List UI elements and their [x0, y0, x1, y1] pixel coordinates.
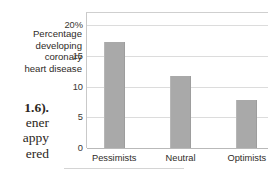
plot-area: 05101520% PessimistsNeutralOptimists: [86, 12, 268, 148]
x-axis-category-label: Optimists: [227, 153, 266, 163]
body-text-column: 1.6). ener appy ered: [0, 100, 52, 161]
bar: [104, 42, 125, 148]
y-axis-tick-label: 0: [78, 143, 83, 153]
body-text-fragment: appy: [0, 130, 49, 145]
y-axis-tick-label: 5: [78, 112, 83, 122]
page-rule: [64, 168, 184, 169]
bar: [236, 100, 257, 148]
y-axis-label-line: heart disease: [0, 63, 82, 75]
bar-chart: 05101520% PessimistsNeutralOptimists: [86, 12, 268, 148]
y-axis-tick-label: 20%: [64, 20, 83, 30]
y-axis-tick-label: 15: [73, 51, 83, 61]
y-axis-label-line: developing: [0, 40, 82, 52]
x-axis-category-label: Pessimists: [92, 153, 136, 163]
y-axis-tick-label: 10: [73, 82, 83, 92]
body-text-fragment: ered: [0, 146, 49, 161]
body-text-fragment: ener: [0, 115, 49, 130]
gridline: [87, 148, 268, 149]
bar: [170, 76, 191, 148]
gridline: [87, 25, 268, 26]
y-axis-label-line: coronary: [0, 51, 82, 63]
x-axis-category-label: Neutral: [166, 153, 196, 163]
y-axis-label: Percentage developing coronary heart dis…: [0, 28, 82, 74]
body-text-fragment: 1.6).: [0, 100, 49, 115]
